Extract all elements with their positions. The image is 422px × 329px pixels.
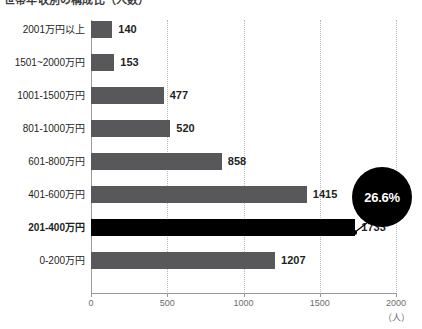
callout-percentage-label: 26.6% [364, 190, 399, 205]
x-axis-tick-label: 0 [88, 298, 93, 308]
x-axis-unit-label: （人） [383, 311, 410, 324]
category-label: 201-400万円 [0, 219, 85, 236]
x-axis-tick [320, 293, 321, 297]
bar-row: 2001万円以上140 [0, 21, 422, 54]
x-axis-tick [396, 293, 397, 297]
bar[interactable] [91, 153, 222, 170]
x-axis-tick-label: 2000 [386, 298, 406, 308]
bar-value-label: 520 [176, 120, 194, 137]
bar-value-label: 153 [120, 54, 138, 71]
bar-row: 1501~2000万円153 [0, 54, 422, 87]
bar-row: 1001-1500万円477 [0, 87, 422, 120]
bar-value-label: 858 [228, 153, 246, 170]
bar-value-label: 1207 [281, 252, 305, 269]
category-label: 401-600万円 [0, 186, 85, 203]
x-axis-tick-label: 500 [160, 298, 175, 308]
category-label: 2001万円以上 [0, 21, 85, 38]
category-label: 1501~2000万円 [0, 54, 85, 71]
x-axis-tick [244, 293, 245, 297]
category-label: 801-1000万円 [0, 120, 85, 137]
bar[interactable] [91, 186, 307, 203]
bar-row: 0-200万円1207 [0, 252, 422, 285]
x-axis-tick [91, 293, 92, 297]
category-label: 1001-1500万円 [0, 87, 85, 104]
callout-anchor-dot [352, 230, 357, 235]
chart-title: 世帯年収別の構成比（人数） [4, 0, 150, 7]
bar[interactable] [91, 87, 164, 104]
x-axis-tick-label: 1000 [233, 298, 253, 308]
bar-row: 801-1000万円520 [0, 120, 422, 153]
bar[interactable] [91, 54, 114, 71]
bar-value-label: 140 [118, 21, 136, 38]
callout-badge: 26.6% [352, 167, 412, 227]
bar-value-label: 477 [170, 87, 188, 104]
x-axis-tick-label: 1500 [310, 298, 330, 308]
category-label: 601-800万円 [0, 153, 85, 170]
bar[interactable] [91, 21, 112, 38]
category-label: 0-200万円 [0, 252, 85, 269]
bar-chart: 世帯年収別の構成比（人数） 0500100015002000 （人） 2001万… [0, 0, 422, 329]
bar[interactable] [91, 120, 170, 137]
bar-value-label: 1415 [313, 186, 337, 203]
bar[interactable] [91, 252, 275, 269]
bar[interactable] [91, 219, 355, 236]
x-axis-tick [167, 293, 168, 297]
